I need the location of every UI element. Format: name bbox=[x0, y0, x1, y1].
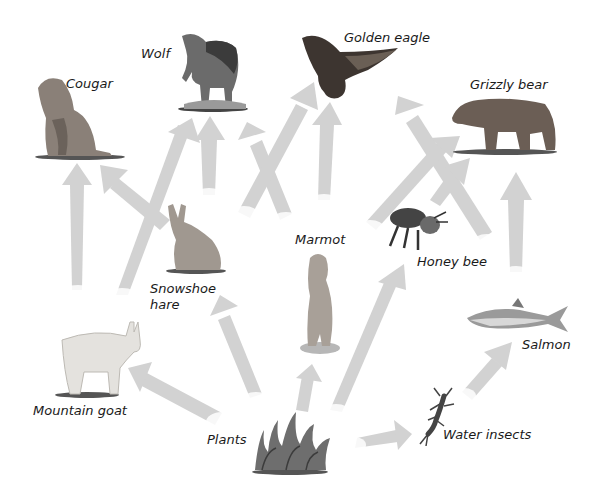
salmon-icon bbox=[467, 298, 568, 332]
label-honey-bee: Honey bee bbox=[417, 254, 487, 270]
label-snowshoe-hare: Snowshoe hare bbox=[150, 281, 230, 313]
honey-bee-icon bbox=[390, 208, 448, 250]
arrow-hare-to-wolf-icon bbox=[195, 116, 225, 195]
grizzly-bear-icon bbox=[452, 99, 557, 155]
label-grizzly-bear: Grizzly bear bbox=[470, 77, 548, 93]
arrow-plants-to-marmot-icon bbox=[296, 364, 322, 412]
arrow-plants-to-bee-icon bbox=[330, 264, 406, 412]
mountain-goat-icon bbox=[55, 322, 140, 398]
label-cougar: Cougar bbox=[66, 76, 113, 92]
plants-icon bbox=[252, 412, 330, 475]
label-salmon: Salmon bbox=[522, 337, 571, 353]
arrow-goat-to-cougar-icon bbox=[62, 163, 92, 290]
label-mountain-goat: Mountain goat bbox=[33, 403, 127, 419]
food-web-canvas bbox=[0, 0, 603, 498]
arrow-marmot-to-eagle-icon bbox=[312, 102, 342, 200]
arrow-plants-to-goat-icon bbox=[128, 362, 222, 425]
label-plants: Plants bbox=[207, 432, 247, 448]
label-golden-eagle: Golden eagle bbox=[344, 30, 430, 46]
wolf-icon bbox=[178, 34, 248, 112]
food-web-diagram: Cougar Wolf Golden eagle Grizzly bear Sn… bbox=[0, 0, 603, 498]
arrow-salmon-to-grizzly-icon bbox=[500, 172, 532, 272]
marmot-icon bbox=[300, 254, 340, 354]
label-water-insects: Water insects bbox=[443, 427, 531, 443]
snowshoe-hare-icon bbox=[166, 204, 226, 274]
label-wolf: Wolf bbox=[141, 46, 170, 62]
label-marmot: Marmot bbox=[295, 232, 345, 248]
